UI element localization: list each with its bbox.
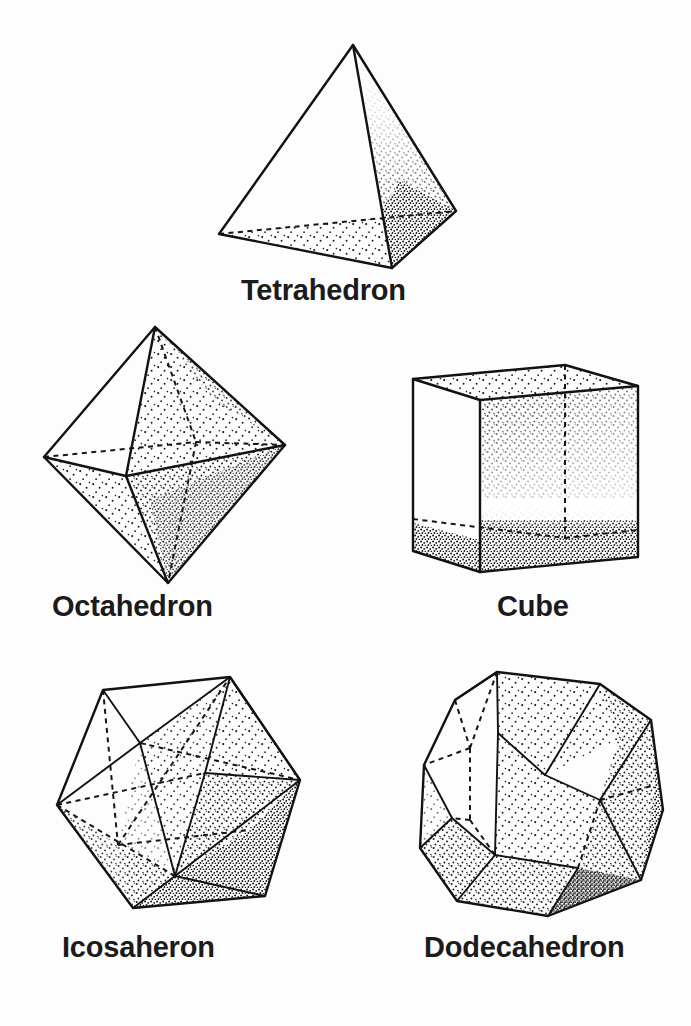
icosahedron-shape <box>57 677 300 908</box>
solids-drawing-canvas <box>0 0 691 1026</box>
platonic-solids-figure: Tetrahedron Octahedron Cube Icosaheron D… <box>0 0 691 1026</box>
dodecahedron-label: Dodecahedron <box>424 933 625 962</box>
cube-front-bottom-band-fade <box>470 498 650 528</box>
tetrahedron-label: Tetrahedron <box>241 276 406 305</box>
dodecahedron-edge-1 <box>497 672 498 733</box>
octahedron-label: Octahedron <box>52 592 213 621</box>
cube-label: Cube <box>497 592 569 621</box>
icosahedron-label: Icosaheron <box>62 933 215 962</box>
tetrahedron-shape <box>219 45 456 268</box>
octahedron-shape <box>44 327 285 583</box>
dodecahedron-shape <box>420 672 663 916</box>
cube-shape <box>413 365 650 586</box>
